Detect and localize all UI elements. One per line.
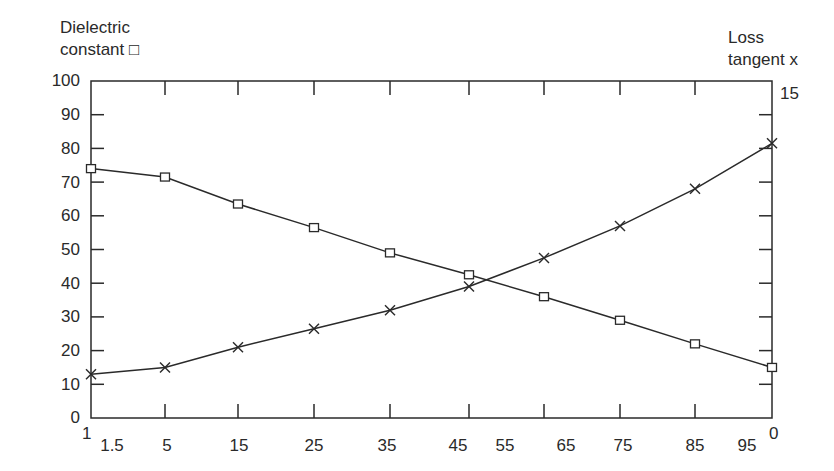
square-marker-icon (386, 249, 395, 257)
loss-tangent-line (91, 143, 772, 374)
square-marker-icon (691, 340, 700, 348)
square-marker-icon (465, 271, 474, 279)
plot-frame (91, 81, 772, 418)
x-marker-icon (615, 221, 625, 231)
square-marker-icon (87, 165, 96, 173)
plot-area (0, 0, 834, 471)
x-marker-icon (385, 305, 395, 315)
x-marker-icon (233, 342, 243, 352)
series-markers (86, 138, 777, 379)
axes-box (91, 81, 772, 418)
x-marker-icon (309, 324, 319, 334)
square-marker-icon (310, 224, 319, 232)
square-marker-icon (540, 293, 549, 301)
series-lines (91, 143, 772, 374)
square-marker-icon (234, 200, 243, 208)
dielectric-constant-line (91, 169, 772, 368)
x-marker-icon (690, 184, 700, 194)
square-marker-icon (161, 173, 170, 181)
x-marker-icon (539, 253, 549, 263)
x-marker-icon (464, 282, 474, 292)
square-marker-icon (616, 316, 625, 324)
square-marker-icon (768, 363, 777, 371)
